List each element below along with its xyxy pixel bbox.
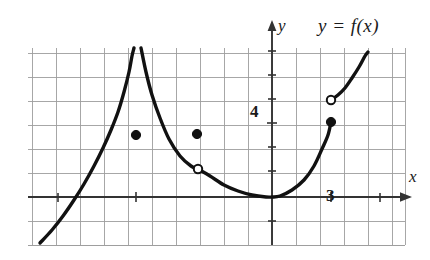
x-tick-label-3: 3: [326, 187, 335, 204]
y-axis-label: y: [278, 17, 286, 34]
open-point-marker: [194, 165, 202, 173]
function-equation-label: y = f(x): [318, 16, 379, 35]
function-graph-figure: [0, 0, 430, 260]
closed-point-marker: [326, 117, 335, 126]
open-point-marker: [327, 96, 335, 104]
y-tick-label-4: 4: [250, 103, 259, 120]
closed-point-marker: [192, 129, 201, 138]
x-axis-label: x: [409, 168, 417, 185]
closed-point-marker: [131, 130, 140, 139]
